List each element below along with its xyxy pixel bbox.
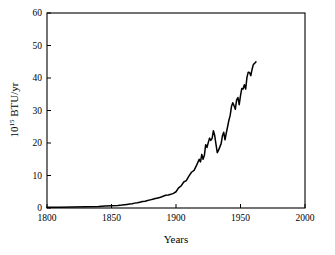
x-axis-title: Years xyxy=(164,233,189,245)
x-tick-label-1800: 1800 xyxy=(38,213,57,223)
y-axis-tick-labels: 0102030405060 xyxy=(33,8,43,213)
y-axis-title: 1015 BTU/yr xyxy=(8,82,20,137)
y-axis-title-unit: BTU/yr xyxy=(8,82,20,119)
x-axis-tick-labels: 18001850190019502000 xyxy=(38,213,315,223)
x-tick-label-2000: 2000 xyxy=(296,213,315,223)
y-tick-label-10: 10 xyxy=(33,171,43,181)
energy-consumption-chart-figure: 18001850190019502000 0102030405060 Years… xyxy=(0,0,335,255)
x-tick-label-1900: 1900 xyxy=(167,213,186,223)
y-tick-label-30: 30 xyxy=(33,106,43,116)
y-tick-label-0: 0 xyxy=(37,203,42,213)
y-tick-label-40: 40 xyxy=(33,73,43,83)
x-tick-label-1850: 1850 xyxy=(102,213,121,223)
y-tick-label-60: 60 xyxy=(33,8,43,18)
plot-background xyxy=(47,13,305,208)
chart-plot-area: 18001850190019502000 0102030405060 Years… xyxy=(0,0,335,255)
y-tick-label-20: 20 xyxy=(33,138,43,148)
y-tick-label-50: 50 xyxy=(33,41,43,51)
x-tick-label-1950: 1950 xyxy=(231,213,250,223)
y-axis-title-base: 10 xyxy=(8,126,20,138)
